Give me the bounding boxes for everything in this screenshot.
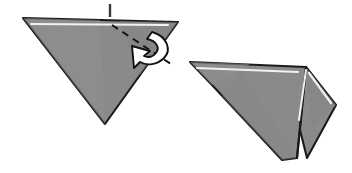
- origami-illustration: [0, 0, 352, 173]
- top-edge-highlight: [31, 24, 168, 25]
- panel-before-fold: [23, 4, 178, 124]
- origami-diagram: [0, 0, 352, 173]
- panel-after-fold: [190, 62, 336, 160]
